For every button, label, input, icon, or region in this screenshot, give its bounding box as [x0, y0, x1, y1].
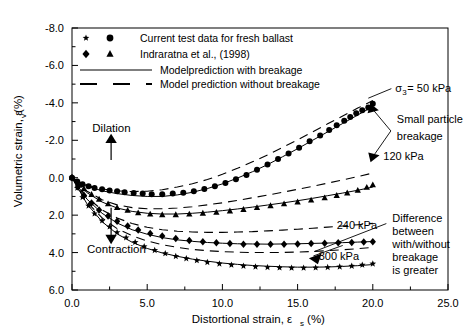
data-point-star [288, 264, 295, 270]
data-point-star [193, 257, 200, 263]
volumetric-strain-chart: 0.05.010.015.020.025.0-8.0-6.0-4.0-2.00.… [0, 0, 465, 332]
data-point-diamond [370, 238, 376, 246]
chart-canvas: 0.05.010.015.020.025.0-8.0-6.0-4.0-2.00.… [0, 0, 465, 332]
annotation-difference-line2: between [392, 225, 434, 237]
data-point-triangle [240, 206, 246, 212]
x-tick-label: 20.0 [362, 297, 383, 309]
data-point-triangle [370, 181, 376, 187]
x-tick-label: 0.0 [64, 297, 79, 309]
annotation-small-particle-breakage-line2: breakage [397, 130, 443, 142]
data-point-star [228, 261, 235, 267]
y-tick-label: 6.0 [49, 284, 64, 296]
annotation-120kpa: 120 kPa [383, 150, 424, 162]
legend-label: Model prediction without breakage [160, 78, 320, 90]
y-tick-label: -6.0 [45, 59, 64, 71]
data-point-circle [107, 35, 114, 42]
data-point-star [348, 263, 355, 269]
legend-label: Indraratna et al., (1998) [140, 48, 250, 60]
data-point-circle [326, 127, 332, 133]
data-point-star [83, 34, 90, 40]
data-point-circle [317, 133, 323, 139]
y-axis-title: Volumetric strain, ε [12, 111, 24, 208]
annotation-difference-line4: breakage [392, 251, 438, 263]
data-point-star [162, 250, 169, 256]
annotation-sigma3-50kpa: σ [395, 82, 402, 94]
data-point-circle [122, 189, 128, 195]
annotation-difference-line3: with/without [391, 238, 449, 250]
y-tick-label: -4.0 [45, 97, 64, 109]
data-point-star [106, 223, 113, 229]
data-point-diamond [213, 239, 219, 247]
x-axis-title-subscript: s [300, 319, 304, 328]
data-point-star [204, 259, 211, 265]
data-point-circle [254, 167, 260, 173]
data-point-circle [180, 190, 186, 196]
data-point-circle [347, 114, 353, 120]
data-point-star [183, 255, 190, 261]
y-tick-label: -8.0 [45, 22, 64, 34]
data-point-star [172, 253, 179, 259]
data-point-circle [353, 110, 359, 116]
annotation-difference-line1: Difference [392, 212, 442, 224]
data-point-diamond [349, 239, 355, 247]
data-point-triangle [364, 184, 370, 190]
data-point-diamond [173, 235, 179, 243]
data-point-star [312, 264, 319, 270]
annotation-dilation-label: Dilation [92, 122, 130, 134]
x-tick-label: 5.0 [140, 297, 155, 309]
y-axis-title-units: (%) [12, 95, 24, 113]
y-tick-label: -2.0 [45, 134, 64, 146]
data-point-circle [222, 180, 228, 186]
data-point-circle [149, 191, 155, 197]
data-point-diamond [281, 240, 287, 248]
data-point-star [324, 264, 331, 270]
data-point-circle [265, 162, 271, 168]
data-point-circle [131, 190, 137, 196]
data-point-star [369, 260, 376, 266]
data-point-diamond [322, 239, 328, 247]
data-point-diamond [308, 240, 314, 248]
data-point-circle [140, 191, 146, 197]
data-point-star [123, 234, 130, 240]
arrow-head-120kpa [368, 152, 379, 162]
data-point-diamond [159, 232, 165, 240]
y-tick-label: 2.0 [49, 209, 64, 221]
annotation-leader-50kpa [368, 89, 391, 99]
x-axis-title-units: (%) [307, 313, 325, 325]
x-tick-label: 10.0 [212, 297, 233, 309]
y-tick-label: 4.0 [49, 247, 64, 259]
data-point-diamond [361, 238, 367, 246]
data-point-circle [159, 191, 165, 197]
data-point-circle [359, 107, 365, 113]
data-point-diamond [267, 241, 273, 249]
data-point-star [336, 263, 343, 269]
data-point-star [216, 260, 223, 266]
data-point-diamond [200, 238, 206, 246]
data-point-circle [275, 156, 281, 162]
data-point-circle [170, 191, 176, 197]
data-point-circle [307, 138, 313, 144]
data-point-circle [341, 118, 347, 124]
dilation-arrow-head-icon [105, 134, 116, 143]
data-point-circle [334, 122, 340, 128]
annotation-sigma3-50kpa-value: = 50 kPa [407, 82, 452, 94]
data-point-circle [243, 172, 249, 178]
legend-label: Modelprediction with breakage [160, 64, 303, 76]
x-axis-title: Distortional strain, ε [192, 313, 292, 325]
model-line-with-breakage [72, 107, 373, 197]
data-point-circle [296, 145, 302, 151]
data-point-circle [114, 188, 120, 194]
annotation-small-particle-breakage-line1: Small particle [397, 113, 463, 125]
series-50kpa [69, 101, 376, 197]
data-point-triangle [106, 50, 113, 57]
data-point-diamond [294, 240, 300, 248]
data-point-star [300, 264, 307, 270]
annotation-difference-line5: is greater [392, 264, 438, 276]
data-point-star [240, 263, 247, 269]
data-point-diamond [240, 240, 246, 248]
data-point-circle [86, 183, 92, 189]
data-point-circle [107, 187, 113, 193]
data-point-circle [286, 150, 292, 156]
data-point-star [359, 261, 366, 267]
data-point-diamond [227, 240, 233, 248]
